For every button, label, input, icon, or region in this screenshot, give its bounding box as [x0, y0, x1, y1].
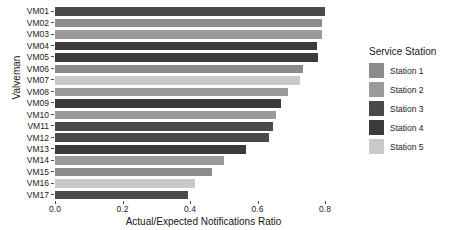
- legend-swatch: [369, 139, 384, 154]
- bar[interactable]: [55, 65, 303, 74]
- bar-row: VM15: [55, 167, 352, 178]
- bar-row: VM17: [55, 190, 352, 201]
- bar-row: VM04: [55, 40, 352, 51]
- y-tick-label: VM17: [27, 190, 49, 200]
- bar-row: VM03: [55, 29, 352, 40]
- y-tick-mark: [51, 137, 54, 138]
- legend-swatch: [369, 63, 384, 78]
- bar[interactable]: [55, 53, 318, 62]
- y-tick-mark: [51, 34, 54, 35]
- x-tick-label: 0.8: [319, 204, 331, 214]
- y-tick-label: VM09: [27, 98, 49, 108]
- y-tick-mark: [51, 171, 54, 172]
- bar[interactable]: [55, 19, 322, 28]
- bar[interactable]: [55, 133, 269, 142]
- x-tick-label: 0.2: [117, 204, 129, 214]
- y-tick-mark: [51, 102, 54, 103]
- y-tick-label: VM02: [27, 18, 49, 28]
- y-tick-mark: [51, 148, 54, 149]
- bar[interactable]: [55, 111, 276, 120]
- x-tick-label: 0.6: [252, 204, 264, 214]
- legend-item[interactable]: Station 2: [369, 80, 449, 99]
- legend-item[interactable]: Station 5: [369, 137, 449, 156]
- y-tick-mark: [51, 114, 54, 115]
- x-tick-label: 0.4: [184, 204, 196, 214]
- y-tick-label: VM13: [27, 144, 49, 154]
- y-axis-title: Valveman: [11, 28, 22, 128]
- bar-row: VM14: [55, 155, 352, 166]
- y-tick-label: VM11: [27, 121, 49, 131]
- y-tick-mark: [51, 160, 54, 161]
- y-tick-label: VM06: [27, 64, 49, 74]
- y-tick-label: VM03: [27, 29, 49, 39]
- y-tick-label: VM14: [27, 155, 49, 165]
- bar[interactable]: [55, 99, 281, 108]
- y-tick-label: VM08: [27, 87, 49, 97]
- y-tick-label: VM16: [27, 178, 49, 188]
- y-tick-mark: [51, 79, 54, 80]
- y-tick-mark: [51, 22, 54, 23]
- legend-swatch: [369, 82, 384, 97]
- y-tick-mark: [51, 45, 54, 46]
- legend-label: Station 2: [390, 85, 424, 95]
- bar-row: VM01: [55, 6, 352, 17]
- bar[interactable]: [55, 179, 195, 188]
- bar[interactable]: [55, 7, 325, 16]
- y-tick-mark: [51, 68, 54, 69]
- bar[interactable]: [55, 156, 224, 165]
- y-tick-mark: [51, 125, 54, 126]
- legend-label: Station 3: [390, 104, 424, 114]
- bar[interactable]: [55, 76, 300, 85]
- bar-row: VM02: [55, 17, 352, 28]
- bar-row: VM10: [55, 109, 352, 120]
- legend-swatch: [369, 101, 384, 116]
- bar-row: VM06: [55, 63, 352, 74]
- legend-swatch: [369, 120, 384, 135]
- y-tick-label: VM04: [27, 41, 49, 51]
- bar[interactable]: [55, 168, 212, 177]
- plot-area: VM01VM02VM03VM04VM05VM06VM07VM08VM09VM10…: [55, 6, 352, 201]
- y-tick-label: VM05: [27, 52, 49, 62]
- bar[interactable]: [55, 88, 288, 97]
- bar-row: VM16: [55, 178, 352, 189]
- y-tick-label: VM15: [27, 167, 49, 177]
- bar-row: VM09: [55, 98, 352, 109]
- x-axis-title: Actual/Expected Notifications Ratio: [55, 216, 352, 227]
- y-tick-label: VM07: [27, 75, 49, 85]
- bar-row: VM13: [55, 144, 352, 155]
- x-tick-label: 0.0: [49, 204, 61, 214]
- y-tick-mark: [51, 11, 54, 12]
- bar[interactable]: [55, 145, 246, 154]
- legend-label: Station 1: [390, 66, 424, 76]
- bar-row: VM12: [55, 132, 352, 143]
- bar[interactable]: [55, 30, 322, 39]
- y-tick-label: VM12: [27, 133, 49, 143]
- y-tick-label: VM10: [27, 110, 49, 120]
- bar-row: VM07: [55, 75, 352, 86]
- bar[interactable]: [55, 42, 317, 51]
- x-axis: Actual/Expected Notifications Ratio 0.00…: [55, 201, 352, 229]
- legend-label: Station 4: [390, 123, 424, 133]
- bar-row: VM05: [55, 52, 352, 63]
- y-tick-mark: [51, 194, 54, 195]
- y-tick-mark: [51, 56, 54, 57]
- legend-item[interactable]: Station 4: [369, 118, 449, 137]
- y-tick-mark: [51, 91, 54, 92]
- bar[interactable]: [55, 191, 188, 200]
- legend: Service Station Station 1Station 2Statio…: [369, 46, 449, 156]
- legend-item[interactable]: Station 1: [369, 61, 449, 80]
- y-tick-label: VM01: [27, 6, 49, 16]
- bar[interactable]: [55, 122, 273, 131]
- y-tick-mark: [51, 183, 54, 184]
- bar-chart: Valveman VM01VM02VM03VM04VM05VM06VM07VM0…: [0, 0, 450, 230]
- bar-row: VM11: [55, 121, 352, 132]
- legend-title: Service Station: [369, 46, 449, 57]
- legend-item[interactable]: Station 3: [369, 99, 449, 118]
- bar-row: VM08: [55, 86, 352, 97]
- legend-label: Station 5: [390, 142, 424, 152]
